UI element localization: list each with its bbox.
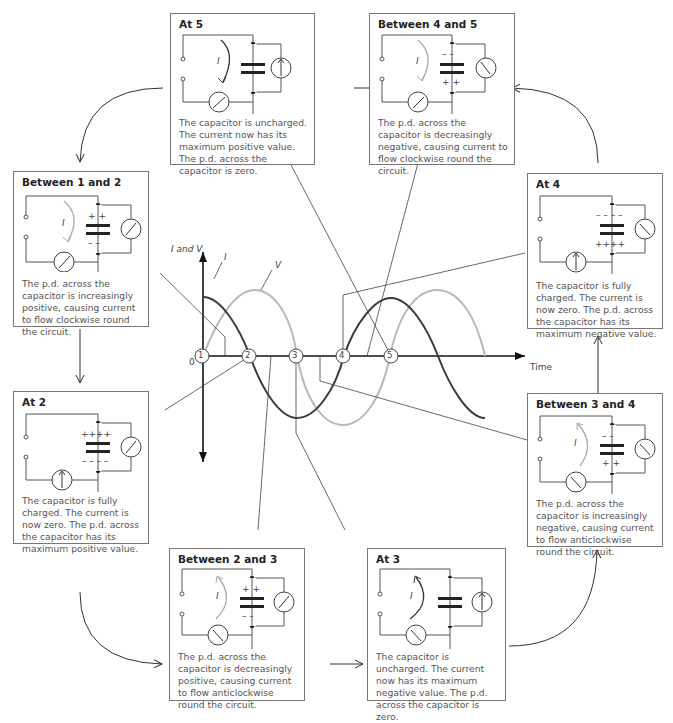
svg-text:+ +: + + [242,584,260,594]
panel-at-3: At 3 I The capacitor is uncharged. The c… [367,548,506,701]
svg-text:+ +: + + [442,77,460,87]
current-symbol: I [216,591,219,601]
svg-text:+ +: + + [602,458,620,468]
voltmeter-icon [472,592,492,612]
panel-description: The capacitor is uncharged. The current … [179,117,310,177]
voltmeter-icon [274,592,294,612]
ammeter-icon [208,625,228,645]
ammeter-icon [54,252,74,272]
panel-description: The capacitor is fully charged. The curr… [536,280,658,340]
point-label-3: 3 [292,350,297,360]
current-symbol: I [410,591,413,601]
svg-text:– –: – – [88,238,100,248]
point-label-2: 2 [245,350,250,360]
current-symbol: I [574,438,577,448]
voltmeter-icon [635,219,655,239]
svg-text:– – – –: – – – – [82,456,109,466]
panel-between-2-and-3: + +– – Between 2 and 3 I The p.d. across… [169,548,305,701]
voltmeter-icon [121,219,141,239]
svg-text:++++: ++++ [81,429,111,439]
panel-between-1-and-2: + +– – Between 1 and 2 I The p.d. across… [13,171,149,327]
panel-title: At 4 [536,178,560,190]
ammeter-icon [566,472,586,492]
panel-description: The capacitor is fully charged. The curr… [22,495,144,555]
svg-text:– –: – – [242,611,254,621]
panel-between-3-and-4: – –+ + Between 3 and 4 I The p.d. across… [527,393,663,547]
current-symbol: I [416,56,419,66]
panel-between-4-and-5: – –+ + Between 4 and 5 I The p.d. across… [369,13,515,165]
current-direction-arrow [221,40,230,82]
voltmeter-icon [121,437,141,457]
panel-title: Between 2 and 3 [178,553,277,565]
svg-text:+ +: + + [88,211,106,221]
voltmeter-icon [635,439,655,459]
panel-description: The p.d. across the capacitor is increas… [22,278,144,338]
panel-title: At 2 [22,396,46,408]
svg-text:– –: – – [602,431,614,441]
voltage-curve-label: V [275,260,281,270]
panel-title: Between 1 and 2 [22,176,121,188]
origin-label: 0 [189,357,195,367]
current-symbol: I [62,218,65,228]
ammeter-icon [52,470,72,490]
point-label-5: 5 [387,350,392,360]
x-axis-label: Time [530,362,552,372]
current-direction-arrow [418,40,428,80]
ammeter-icon [209,92,229,112]
point-label-4: 4 [339,350,344,360]
svg-text:– –: – – [442,49,454,59]
ammeter-icon [406,625,426,645]
panel-at-5: At 5 I The capacitor is uncharged. The c… [170,13,315,165]
panel-at-4: – – – –++++ At 4 The capacitor is fully … [527,173,663,329]
y-axis-label: I and V [171,244,202,254]
voltmeter-icon [476,58,496,78]
panel-title: At 3 [376,553,400,565]
point-label-1: 1 [198,350,203,360]
panel-description: The p.d. across the capacitor is decreas… [178,651,300,711]
panel-title: Between 3 and 4 [536,398,635,410]
panel-description: The capacitor is uncharged. The current … [376,651,501,723]
voltmeter-icon [271,58,291,78]
panel-title: Between 4 and 5 [378,18,477,30]
ammeter-icon [566,252,586,272]
svg-text:– – – –: – – – – [596,210,623,220]
panel-description: The p.d. across the capacitor is increas… [536,498,658,558]
current-curve-label: I [224,252,227,262]
panel-at-2: ++++– – – – At 2 The capacitor is fully … [13,391,149,544]
flow-arrows [80,88,598,664]
panel-description: The p.d. across the capacitor is decreas… [378,117,510,177]
current-direction-arrow [578,424,588,466]
ammeter-icon [408,92,428,112]
current-direction-arrow [64,201,74,241]
leader-lines [160,163,527,530]
current-symbol: I [217,56,220,66]
panel-title: At 5 [179,18,203,30]
svg-text:++++: ++++ [595,239,625,249]
